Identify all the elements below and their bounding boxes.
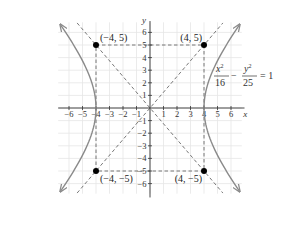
x-axis-label: x (242, 109, 247, 119)
y-tick-label: 2 (142, 78, 146, 88)
hyperbola-figure: −6−5−4−3−2−1123456−6−5−4−3−2−1123456xy (… (0, 0, 300, 230)
eq-exp-x: 2 (220, 63, 223, 69)
axes: −6−5−4−3−2−1123456−6−5−4−3−2−1123456xy (58, 15, 247, 197)
eq-exp-y: 2 (248, 63, 251, 69)
svg-text:x2: x2 (215, 63, 223, 74)
point-label: (4, 5) (180, 32, 202, 44)
point-marker (93, 42, 99, 48)
point-label: (−4, −5) (100, 173, 133, 185)
y-tick-label: −5 (137, 166, 146, 176)
x-tick-label: 6 (229, 109, 233, 119)
y-tick-label: 3 (142, 65, 146, 75)
x-tick-label: 3 (188, 109, 192, 119)
eq-den-y: 25 (243, 77, 253, 88)
y-tick-label: −1 (137, 116, 146, 126)
y-tick-label: −3 (137, 141, 146, 151)
y-tick-label: 6 (142, 27, 146, 37)
point-label: (−4, 5) (100, 32, 127, 44)
x-tick-label: −5 (78, 109, 87, 119)
x-tick-label: 1 (161, 109, 165, 119)
eq-minus: − (231, 70, 237, 81)
eq-den-x: 16 (215, 77, 225, 88)
y-tick-label: −2 (137, 128, 146, 138)
y-axis-label: y (141, 15, 146, 25)
x-tick-label: −6 (64, 109, 73, 119)
x-tick-label: 5 (215, 109, 219, 119)
y-tick-label: −4 (137, 153, 147, 163)
y-tick-label: 1 (142, 90, 146, 100)
svg-text:y2: y2 (243, 63, 251, 74)
y-tick-label: −6 (137, 179, 146, 189)
x-tick-label: −3 (105, 109, 114, 119)
y-tick-label: 5 (142, 40, 146, 50)
equation-label: x2 16 − y2 25 = 1 (214, 63, 273, 88)
point-marker (93, 168, 99, 174)
eq-rhs: = 1 (260, 70, 273, 81)
point-label: (4, −5) (175, 173, 202, 185)
x-tick-label: −2 (118, 109, 127, 119)
x-tick-label: 2 (175, 109, 179, 119)
